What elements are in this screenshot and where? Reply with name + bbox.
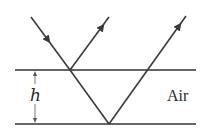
thin-film-diagram: h Air [0,0,212,131]
medium-label: Air [167,87,189,104]
thickness-arrow-down-icon [33,118,37,123]
thickness-arrow-up-icon [33,71,37,76]
transmitted-ray [70,70,109,124]
thickness-label: h [30,85,41,105]
incident-ray [31,17,70,70]
reflected-ray-top [70,17,109,70]
